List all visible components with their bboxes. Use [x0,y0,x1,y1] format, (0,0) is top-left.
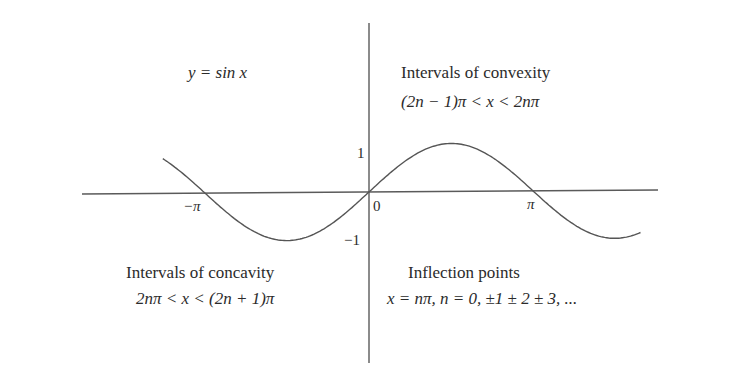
concavity-title: Intervals of concavity [126,264,274,281]
concavity-formula: 2nπ < x < (2n + 1)π [136,290,274,307]
equation-text: y = sin x [188,63,247,82]
convexity-title: Intervals of convexity [401,64,550,81]
x-tick-zero: 0 [373,199,381,214]
convexity-formula: (2n − 1)π < x < 2nπ [401,93,539,110]
inflection-title: Inflection points [408,264,520,281]
plot-canvas [0,0,734,378]
y-tick-one: 1 [357,146,365,161]
x-tick-pi: π [527,197,535,212]
inflection-formula: x = nπ, n = 0, ±1 ± 2 ± 3, ... [387,290,577,307]
y-tick-neg-one: −1 [344,233,360,248]
x-tick-neg-pi: −π [183,199,201,214]
equation-label: y = sin x [188,64,247,81]
sine-diagram: y = sin x Intervals of convexity (2n − 1… [0,0,734,378]
